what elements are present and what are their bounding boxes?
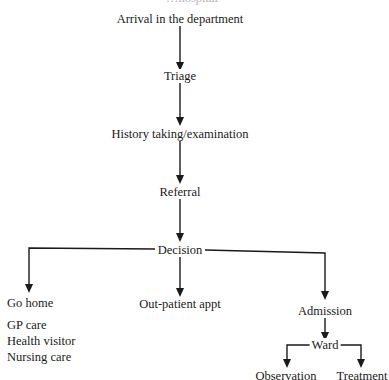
node-observation: Observation xyxy=(253,369,318,380)
arrow-decision-admission xyxy=(205,250,325,295)
list-item: GP care xyxy=(5,318,48,332)
node-go-home: Go home xyxy=(5,296,55,310)
node-arrival: Arrival in the department xyxy=(115,12,246,26)
node-history: History taking/examination xyxy=(109,127,250,141)
arrowhead-icon xyxy=(176,117,184,126)
arrowhead-icon xyxy=(357,359,365,368)
arrow-ward-observation xyxy=(287,345,311,363)
node-decision: Decision xyxy=(156,243,204,257)
node-treatment: Treatment xyxy=(335,369,389,380)
arrowhead-icon xyxy=(176,233,184,242)
arrow-decision-gohome xyxy=(29,248,155,288)
arrowhead-icon xyxy=(176,175,184,184)
arrowhead-icon xyxy=(321,291,329,300)
node-ward: Ward xyxy=(310,338,341,352)
arrowhead-icon xyxy=(25,284,33,293)
node-referral: Referral xyxy=(158,185,203,199)
arrowhead-icon xyxy=(176,288,184,297)
list-item: Health visitor xyxy=(5,334,77,348)
arrowhead-icon xyxy=(283,359,291,368)
node-outpatient: Out-patient appt xyxy=(137,297,223,311)
caption-fragment: …hospital xyxy=(166,0,218,6)
node-triage: Triage xyxy=(162,69,198,83)
list-item: Nursing care xyxy=(5,350,73,364)
node-admission: Admission xyxy=(296,304,354,318)
